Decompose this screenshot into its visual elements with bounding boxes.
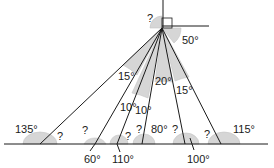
- label-q1: ?: [57, 130, 63, 142]
- label-50: 50°: [182, 34, 199, 46]
- label-apex-15: 15°: [118, 70, 135, 82]
- label-q2: ?: [82, 124, 88, 136]
- label-apex-20: 20°: [155, 75, 172, 87]
- label-apex-15b: 15°: [176, 84, 193, 96]
- label-100: 100°: [187, 153, 210, 165]
- label-apex-unknown: ?: [147, 12, 153, 24]
- label-80: 80°: [151, 123, 168, 135]
- label-q5: ?: [172, 123, 178, 135]
- angle-diagram: ? 50° 15° 10° 10° 20° 15° 135° ? ? 60° 1…: [0, 0, 274, 168]
- label-q4: ?: [136, 123, 142, 135]
- base-arc-4: [133, 134, 155, 144]
- leader-60: [90, 144, 95, 151]
- leader-110: [117, 144, 120, 152]
- label-135: 135°: [15, 123, 38, 135]
- label-110: 110°: [112, 153, 134, 165]
- label-60: 60°: [84, 153, 101, 165]
- label-q3: ?: [125, 130, 131, 142]
- label-q6: ?: [204, 128, 210, 140]
- label-115: 115°: [233, 123, 255, 135]
- label-apex-10b: 10°: [135, 104, 152, 116]
